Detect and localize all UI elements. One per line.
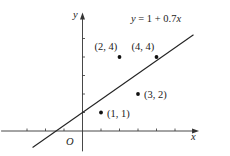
equation-label: y = 1 + 0.7x [130,13,181,24]
data-point-label: (4, 4) [132,41,155,53]
data-point-label: (1, 1) [107,108,130,120]
data-points [99,55,158,114]
x-axis-label: x [190,131,196,142]
axes [1,13,199,152]
point-labels: (1, 1)(2, 4)(3, 2)(4, 4) [95,41,168,120]
scatter-plot-with-regression-line: (1, 1)(2, 4)(3, 2)(4, 4) x y O y = 1 + 0… [0,0,230,156]
data-point [118,55,122,59]
y-axis-arrow-icon [80,13,85,20]
data-point-label: (3, 2) [144,89,167,101]
origin-label: O [66,136,74,147]
data-point-label: (2, 4) [95,41,118,53]
y-axis-label: y [72,9,78,20]
data-point [136,92,140,96]
axis-ticks [27,39,175,132]
data-point [155,55,159,59]
data-point [99,111,103,115]
